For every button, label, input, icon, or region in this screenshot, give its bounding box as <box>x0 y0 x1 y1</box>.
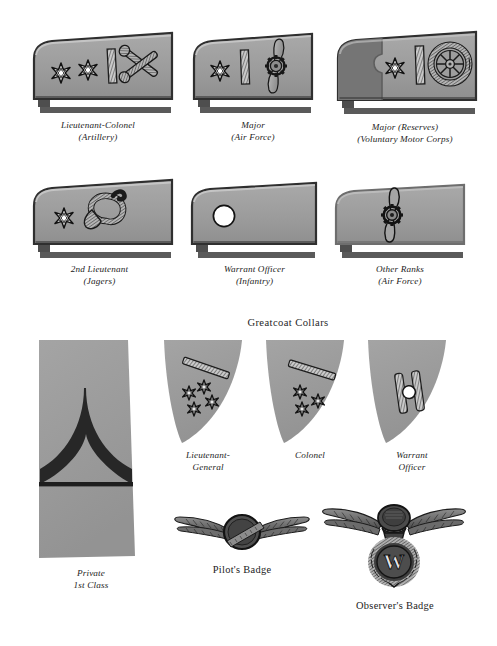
shoulder-board-other-ranks-air-force[interactable] <box>330 184 470 260</box>
left-wing-icon <box>323 509 382 535</box>
caption-major-reserves: Major (Reserves) (Voluntary Motor Corps) <box>325 122 485 145</box>
greatcoat-collars-heading: Greatcoat Collars <box>198 317 378 328</box>
rank-label: Major (Reserves) <box>372 122 438 132</box>
caption-lieutenant-general: Lieutenant- General <box>158 450 258 473</box>
white-disc-pip <box>213 205 234 226</box>
rank-label: Warrant Officer <box>224 264 285 274</box>
caption-warrant-officer-collar: Warrant Officer <box>362 450 462 473</box>
caption-warrant-officer-infantry: Warrant Officer (Infantry) <box>182 264 327 287</box>
pilots-badge[interactable] <box>172 508 312 560</box>
rank-label: Private <box>77 568 105 578</box>
caption-pilots-badge: Pilot's Badge <box>180 564 304 575</box>
rank-label-2: General <box>158 462 258 474</box>
rank-label: Other Ranks <box>376 264 424 274</box>
caption-observers-badge: Observer's Badge <box>324 600 466 611</box>
branch-label: (Infantry) <box>182 276 327 288</box>
left-wing-icon <box>175 517 230 539</box>
branch-label: (Air Force) <box>325 276 475 288</box>
caption-private-1st-class: Private 1st Class <box>32 568 150 591</box>
branch-label: (Voluntary Motor Corps) <box>325 134 485 146</box>
wreath-device: W <box>371 540 417 587</box>
caption-colonel: Colonel <box>260 450 360 462</box>
observers-badge[interactable]: W <box>318 500 470 596</box>
wreath-letter: W <box>384 550 405 574</box>
caption-major-air-force: Major (Air Force) <box>183 120 323 143</box>
right-wing-icon <box>406 509 465 535</box>
caption-other-ranks-air-force: Other Ranks (Air Force) <box>325 264 475 287</box>
shoulder-board-lieutenant-colonel-artillery[interactable] <box>28 33 178 113</box>
branch-label: (Jagers) <box>22 276 177 288</box>
shoulder-board-2nd-lieutenant-jagers[interactable] <box>28 180 178 258</box>
branch-label: (Air Force) <box>183 132 323 144</box>
shoulder-board-warrant-officer-infantry[interactable] <box>186 182 322 258</box>
sleeve-insignia-private-1st-class[interactable] <box>36 338 146 562</box>
rank-label-2: 1st Class <box>32 580 150 592</box>
greatcoat-collar-warrant-officer[interactable] <box>366 340 458 448</box>
greatcoat-collar-colonel[interactable] <box>264 340 356 448</box>
braid-bar <box>415 46 425 84</box>
greatcoat-collar-lieutenant-general[interactable] <box>162 340 254 448</box>
braid-bar <box>107 49 117 83</box>
rank-label-2: Officer <box>362 462 462 474</box>
insignia-plate: Lieutenant-Colonel (Artillery) <box>0 0 497 646</box>
rank-label: Lieutenant-Colonel <box>61 120 135 130</box>
caption-lieutenant-colonel: Lieutenant-Colonel (Artillery) <box>18 120 178 143</box>
rank-label: Major <box>241 120 265 130</box>
branch-label: (Artillery) <box>18 132 178 144</box>
rank-label: Lieutenant- <box>186 450 230 460</box>
rank-label: Warrant <box>396 450 427 460</box>
braid-bar <box>240 50 249 84</box>
shoulder-board-major-air-force[interactable] <box>188 33 318 113</box>
shoulder-board-major-reserves[interactable] <box>330 30 480 115</box>
rank-label: Colonel <box>295 450 325 460</box>
rank-label: 2nd Lieutenant <box>71 264 128 274</box>
caption-2nd-lieutenant: 2nd Lieutenant (Jagers) <box>22 264 177 287</box>
